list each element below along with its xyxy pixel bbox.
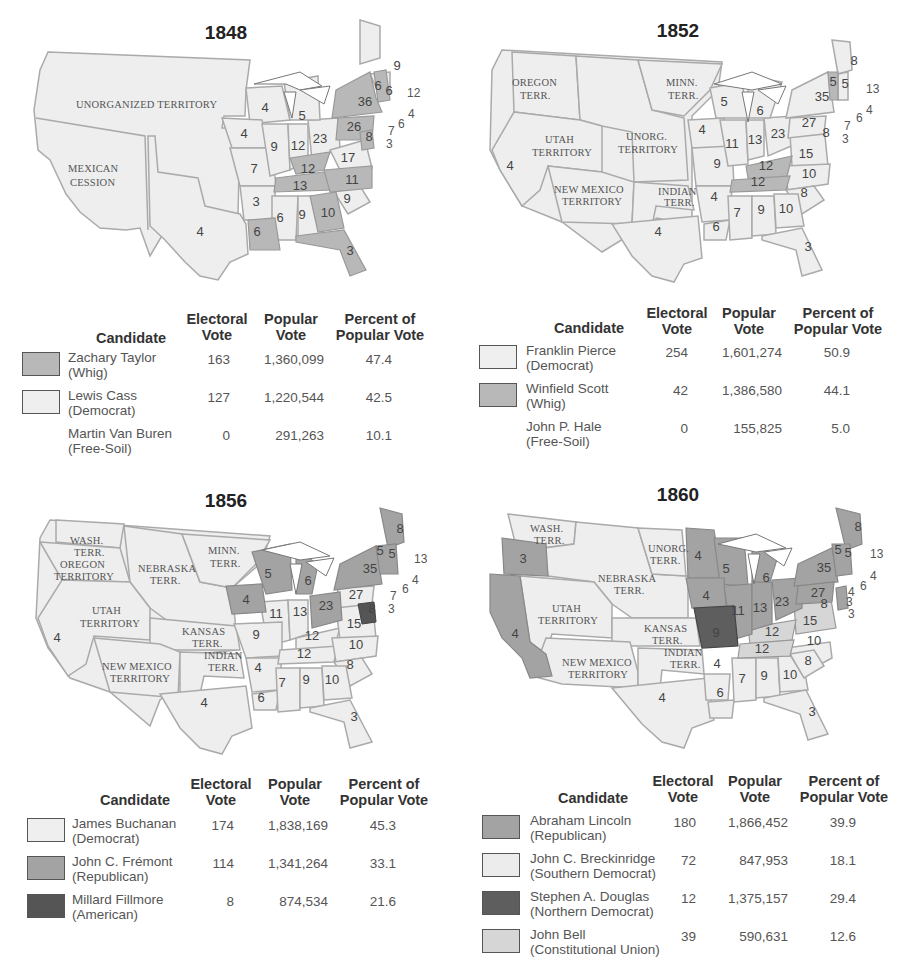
candidate-party: (Free-Soil)	[68, 441, 172, 456]
svg-text:6: 6	[716, 685, 723, 700]
svg-text:9: 9	[343, 191, 350, 206]
svg-text:TERRITORY: TERRITORY	[110, 673, 170, 684]
panel-1860: 1860	[452, 478, 904, 978]
svg-text:13: 13	[293, 604, 307, 619]
header-percent: Percent ofPopular Vote	[328, 311, 432, 343]
candidate-row: Stephen A. Douglas(Northern Democrat) 12…	[452, 889, 904, 925]
svg-text:3: 3	[386, 137, 393, 151]
svg-text:3: 3	[519, 551, 526, 566]
svg-text:9: 9	[302, 672, 309, 687]
svg-text:INDIAN: INDIAN	[664, 647, 703, 658]
svg-text:TERR.: TERR.	[652, 635, 682, 646]
svg-text:23: 23	[775, 594, 789, 609]
svg-text:KANSAS: KANSAS	[644, 623, 687, 634]
header-candidate: Candidate	[76, 330, 186, 346]
svg-text:8: 8	[804, 653, 811, 668]
svg-text:12: 12	[291, 138, 305, 153]
svg-text:WASH.: WASH.	[70, 535, 103, 546]
svg-text:4: 4	[698, 122, 705, 137]
candidate-row: Lewis Cass(Democrat) 127 1,220,544 42.5	[0, 388, 452, 424]
svg-text:13: 13	[753, 600, 767, 615]
svg-text:KANSAS: KANSAS	[182, 626, 225, 637]
southern-democrat-swatch	[482, 853, 520, 877]
svg-text:4: 4	[261, 100, 268, 115]
svg-text:26: 26	[347, 119, 361, 134]
svg-text:NEBRASKA: NEBRASKA	[598, 573, 656, 584]
svg-text:4: 4	[53, 630, 60, 645]
svg-text:3: 3	[842, 132, 849, 146]
svg-text:10: 10	[802, 166, 816, 181]
svg-text:NEW MEXICO: NEW MEXICO	[554, 184, 624, 195]
svg-text:12: 12	[305, 628, 319, 643]
svg-text:6: 6	[257, 690, 264, 705]
svg-text:6: 6	[276, 210, 283, 225]
svg-text:10: 10	[349, 637, 363, 652]
svg-text:TERRITORY: TERRITORY	[538, 615, 598, 626]
republican-swatch	[482, 815, 520, 839]
svg-text:TERR.: TERR.	[534, 535, 564, 546]
electoral-vote: 127	[190, 390, 230, 405]
svg-text:TERR.: TERR.	[74, 547, 104, 558]
svg-text:12: 12	[301, 161, 315, 176]
candidate-row: Millard Fillmore(American) 8 874,534 21.…	[0, 892, 452, 928]
candidate-row: James Buchanan(Democrat) 174 1,838,169 4…	[0, 816, 452, 852]
candidate-row: John P. Hale(Free-Soil) 0 155,825 5.0	[452, 419, 904, 455]
svg-text:5: 5	[722, 561, 729, 576]
svg-text:10: 10	[783, 667, 797, 682]
svg-text:11: 11	[725, 136, 739, 151]
svg-text:6: 6	[374, 78, 381, 93]
svg-text:TERR.: TERR.	[650, 555, 680, 566]
panel-1856: 1856	[0, 478, 452, 978]
percent-vote: 42.5	[340, 390, 392, 405]
svg-text:INDIAN: INDIAN	[658, 186, 697, 197]
svg-text:TERRITORY: TERRITORY	[532, 147, 592, 158]
svg-text:12: 12	[751, 174, 765, 189]
svg-text:UTAH: UTAH	[545, 134, 574, 145]
svg-text:8: 8	[822, 125, 829, 140]
svg-text:UNORG.: UNORG.	[648, 543, 689, 554]
svg-text:4: 4	[511, 626, 518, 641]
svg-text:TERR.: TERR.	[668, 90, 698, 101]
svg-text:TERRITORY: TERRITORY	[618, 144, 678, 155]
svg-text:4: 4	[408, 107, 415, 121]
svg-text:4: 4	[240, 126, 247, 141]
svg-text:9: 9	[712, 625, 719, 640]
svg-text:4: 4	[713, 656, 720, 671]
candidate-row: Franklin Pierce(Democrat) 254 1,601,274 …	[452, 343, 904, 379]
svg-text:5: 5	[841, 76, 848, 91]
svg-text:5: 5	[834, 542, 841, 557]
candidate-row: John C. Frémont(Republican) 114 1,341,26…	[0, 854, 452, 890]
panel-1852: 1852	[452, 0, 904, 478]
svg-text:5: 5	[844, 545, 851, 560]
svg-text:15: 15	[803, 613, 817, 628]
candidate-row: Abraham Lincoln(Republican) 180 1,866,45…	[452, 813, 904, 849]
candidate-row: Winfield Scott(Whig) 42 1,386,580 44.1	[452, 381, 904, 417]
democrat-swatch	[27, 818, 65, 842]
svg-text:4: 4	[242, 592, 249, 607]
svg-text:TERR.: TERR.	[192, 638, 222, 649]
svg-text:4: 4	[200, 695, 207, 710]
svg-text:6: 6	[860, 579, 867, 593]
svg-text:5: 5	[298, 108, 305, 123]
svg-text:4: 4	[866, 103, 873, 117]
svg-text:27: 27	[802, 115, 816, 130]
svg-text:35: 35	[815, 89, 829, 104]
svg-text:8: 8	[854, 519, 861, 534]
svg-text:12: 12	[297, 646, 311, 661]
svg-text:11: 11	[731, 603, 745, 618]
panel-1848: 1848	[0, 0, 452, 478]
header-popular: PopularVote	[256, 311, 326, 343]
candidate-row: Martin Van Buren(Free-Soil) 0 291,263 10…	[0, 426, 452, 462]
svg-text:11: 11	[269, 606, 283, 621]
svg-text:35: 35	[817, 560, 831, 575]
svg-text:27: 27	[349, 587, 363, 602]
election-map-1860: WASH. TERR. UNORG. TERR. NEBRASKA TERR. …	[452, 478, 904, 768]
svg-text:12: 12	[755, 641, 769, 656]
svg-text:4: 4	[658, 690, 665, 705]
svg-text:5: 5	[720, 94, 727, 109]
constitutional-union-swatch	[482, 929, 520, 953]
svg-text:7: 7	[844, 119, 851, 133]
candidate-name: Lewis Cass	[68, 388, 137, 403]
percent-vote: 47.4	[340, 352, 392, 367]
svg-text:4: 4	[412, 573, 419, 587]
